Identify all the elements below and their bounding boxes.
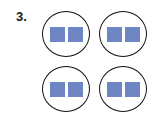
group-circle-2 — [99, 11, 147, 57]
square-item — [50, 82, 65, 97]
square-item — [68, 27, 83, 42]
square-item — [125, 27, 140, 42]
square-item — [125, 82, 140, 97]
square-item — [107, 27, 122, 42]
square-item — [107, 82, 122, 97]
problem-number: 3. — [16, 9, 27, 24]
square-item — [68, 82, 83, 97]
group-circle-4 — [99, 66, 147, 112]
group-circle-3 — [42, 66, 90, 112]
group-circle-1 — [42, 11, 90, 57]
square-item — [50, 27, 65, 42]
